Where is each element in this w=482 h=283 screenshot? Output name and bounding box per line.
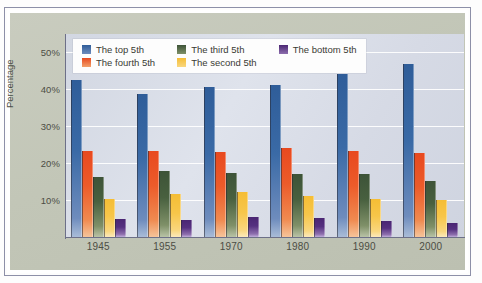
legend-swatch-second-5th-icon — [177, 58, 186, 67]
bar — [281, 148, 292, 237]
chart-legend: The top 5thThe third 5thThe bottom 5thTh… — [73, 39, 366, 73]
legend-item[interactable]: The third 5th — [177, 44, 257, 55]
bar — [181, 220, 192, 237]
bar — [93, 177, 104, 237]
x-axis-line — [65, 237, 465, 238]
y-axis-tick-label: 30% — [41, 121, 60, 132]
x-axis-tick-label: 1955 — [132, 241, 199, 252]
bar — [303, 196, 314, 237]
x-axis-tick-label: 1980 — [265, 241, 332, 252]
bar — [115, 219, 126, 237]
x-axis-tick-label: 1990 — [331, 241, 398, 252]
bar — [148, 151, 159, 237]
bar — [447, 223, 458, 237]
bar — [237, 192, 248, 237]
bar — [359, 174, 370, 237]
bar — [425, 181, 436, 237]
legend-swatch-top-5th-icon — [82, 45, 91, 54]
legend-item-label: The third 5th — [191, 44, 244, 55]
bar — [414, 153, 425, 237]
legend-swatch-fourth-5th-icon — [82, 58, 91, 67]
bar — [226, 173, 237, 237]
legend-item[interactable]: The top 5th — [82, 44, 155, 55]
chart-panel: Percentage 10%20%30%40%50% 1945195519701… — [7, 10, 468, 273]
bar — [170, 194, 181, 237]
bar — [292, 174, 303, 237]
bar — [215, 152, 226, 237]
y-axis-tick-label: 20% — [41, 158, 60, 169]
legend-item-label: The fourth 5th — [96, 57, 155, 68]
y-axis-tick-label: 10% — [41, 195, 60, 206]
bar — [370, 199, 381, 237]
legend-item[interactable]: The bottom 5th — [279, 44, 357, 55]
bar — [381, 221, 392, 237]
bar — [270, 85, 281, 237]
legend-item[interactable]: The second 5th — [177, 57, 257, 68]
bar — [71, 80, 82, 237]
bar — [159, 171, 170, 237]
y-axis-line — [65, 34, 66, 239]
bar — [137, 94, 148, 237]
bar — [337, 74, 348, 237]
legend-item-label: The top 5th — [96, 44, 144, 55]
bar — [204, 87, 215, 237]
x-axis-tick-label: 1945 — [65, 241, 132, 252]
bar — [82, 151, 93, 237]
legend-item-label: The second 5th — [191, 57, 257, 68]
bar-group — [398, 34, 465, 237]
y-axis-tick-labels: 10%20%30%40%50% — [10, 13, 60, 283]
bar — [348, 151, 359, 237]
legend-swatch-bottom-5th-icon — [279, 45, 288, 54]
bar — [314, 218, 325, 237]
legend-item[interactable]: The fourth 5th — [82, 57, 155, 68]
y-axis-tick-label: 50% — [41, 47, 60, 58]
bar — [403, 64, 414, 237]
x-axis-tick-label: 1970 — [198, 241, 265, 252]
x-axis-tick-labels: 194519551970198019902000 — [65, 241, 464, 252]
bar — [436, 200, 447, 237]
bar — [104, 199, 115, 237]
bar — [248, 217, 259, 237]
legend-item-label: The bottom 5th — [293, 44, 357, 55]
legend-swatch-third-5th-icon — [177, 45, 186, 54]
y-axis-tick-label: 40% — [41, 84, 60, 95]
x-axis-tick-label: 2000 — [398, 241, 465, 252]
chart-figure: Percentage 10%20%30%40%50% 1945195519701… — [0, 0, 482, 283]
